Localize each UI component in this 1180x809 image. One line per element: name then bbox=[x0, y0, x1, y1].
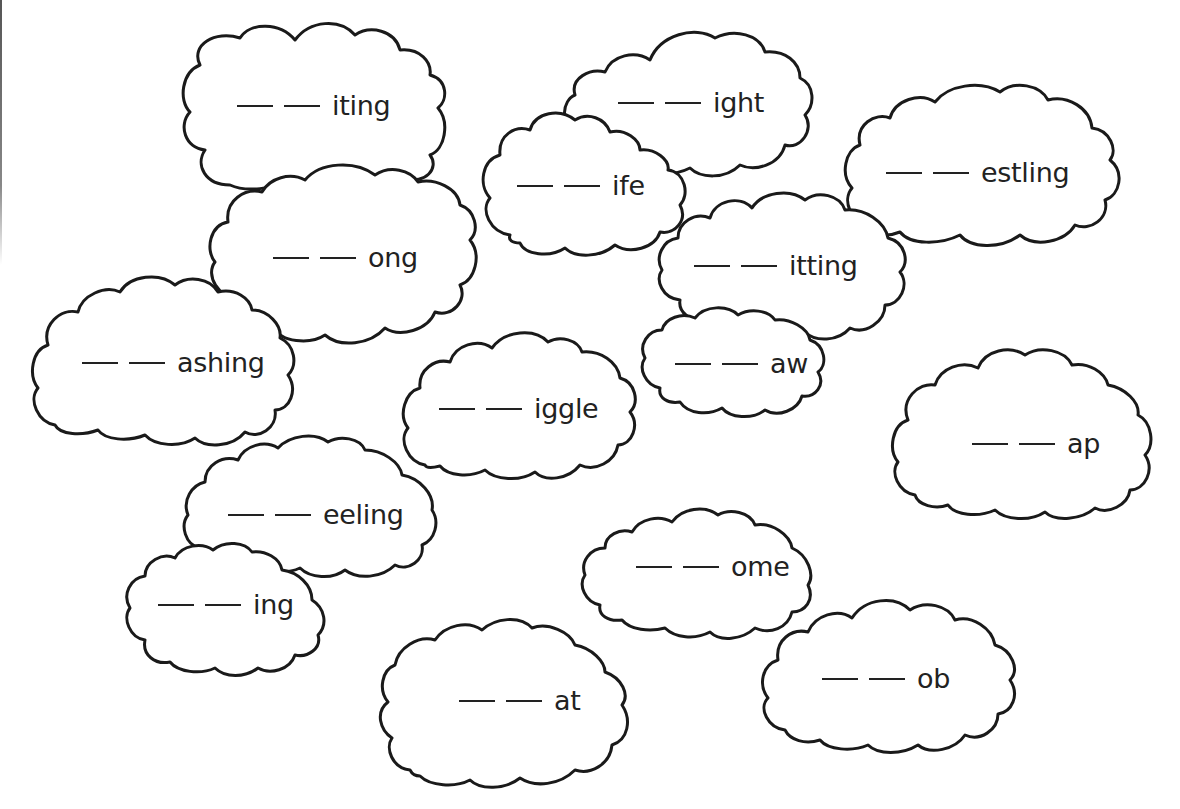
cloud-ome: ome bbox=[636, 551, 790, 582]
cloud-ife: ife bbox=[517, 170, 645, 201]
blank-line[interactable] bbox=[722, 363, 758, 365]
cloud-estling: estling bbox=[886, 157, 1069, 188]
word-ending: ashing bbox=[177, 347, 265, 378]
blank-line[interactable] bbox=[275, 514, 311, 516]
word-ending: ap bbox=[1067, 428, 1100, 459]
blank-line[interactable] bbox=[129, 362, 165, 364]
word-ending: iggle bbox=[534, 393, 598, 424]
cloud-itting: itting bbox=[694, 250, 858, 281]
blank-line[interactable] bbox=[284, 105, 320, 107]
blank-line[interactable] bbox=[82, 362, 118, 364]
blank-line[interactable] bbox=[1019, 443, 1055, 445]
worksheet-page: iting ight ife estling ong itting aw ash… bbox=[0, 0, 1180, 809]
blank-line[interactable] bbox=[741, 265, 777, 267]
blank-line[interactable] bbox=[237, 105, 273, 107]
blank-line[interactable] bbox=[972, 443, 1008, 445]
blank-line[interactable] bbox=[564, 185, 600, 187]
cloud-iggle: iggle bbox=[439, 393, 598, 424]
word-ending: ife bbox=[612, 170, 645, 201]
cloud-at: at bbox=[459, 685, 581, 716]
blank-line[interactable] bbox=[683, 566, 719, 568]
cloud-eeling: eeling bbox=[228, 499, 404, 530]
word-ending: ight bbox=[713, 87, 764, 118]
blank-line[interactable] bbox=[822, 678, 858, 680]
blank-line[interactable] bbox=[665, 102, 701, 104]
blank-line[interactable] bbox=[636, 566, 672, 568]
blank-line[interactable] bbox=[158, 604, 194, 606]
cloud-aw: aw bbox=[675, 348, 808, 379]
word-ending: eeling bbox=[323, 499, 404, 530]
blank-line[interactable] bbox=[273, 257, 309, 259]
word-ending: estling bbox=[981, 157, 1069, 188]
word-ending: ob bbox=[917, 663, 950, 694]
cloud-ing: ing bbox=[158, 589, 294, 620]
word-ending: ome bbox=[731, 551, 790, 582]
cloud-ashing: ashing bbox=[82, 347, 265, 378]
blank-line[interactable] bbox=[886, 172, 922, 174]
cloud-ob: ob bbox=[822, 663, 950, 694]
blank-line[interactable] bbox=[675, 363, 711, 365]
blank-line[interactable] bbox=[439, 408, 475, 410]
word-ending: iting bbox=[332, 90, 390, 121]
blank-line[interactable] bbox=[869, 678, 905, 680]
cloud-ight: ight bbox=[618, 87, 764, 118]
blank-line[interactable] bbox=[486, 408, 522, 410]
word-ending: at bbox=[554, 685, 581, 716]
cloud-ap: ap bbox=[972, 428, 1100, 459]
blank-line[interactable] bbox=[618, 102, 654, 104]
word-ending: ing bbox=[253, 589, 294, 620]
blank-line[interactable] bbox=[517, 185, 553, 187]
blank-line[interactable] bbox=[506, 700, 542, 702]
blank-line[interactable] bbox=[933, 172, 969, 174]
cloud-ong: ong bbox=[273, 242, 418, 273]
blank-line[interactable] bbox=[694, 265, 730, 267]
word-ending: ong bbox=[368, 242, 418, 273]
blank-line[interactable] bbox=[320, 257, 356, 259]
word-ending: aw bbox=[770, 348, 808, 379]
blank-line[interactable] bbox=[459, 700, 495, 702]
blank-line[interactable] bbox=[205, 604, 241, 606]
blank-line[interactable] bbox=[228, 514, 264, 516]
word-ending: itting bbox=[789, 250, 858, 281]
cloud-iting: iting bbox=[237, 90, 390, 121]
